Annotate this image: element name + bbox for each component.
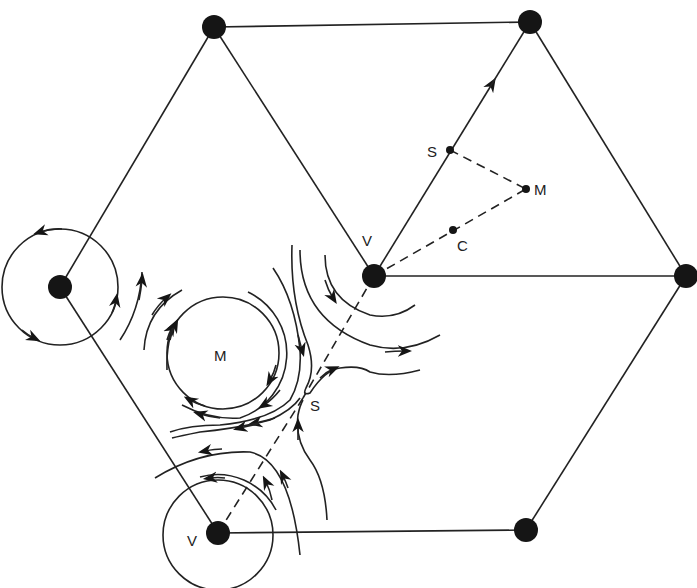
edge-bottom <box>218 530 526 533</box>
point-m-tri <box>522 185 530 193</box>
point-s-edge <box>446 146 454 154</box>
vertex-right <box>674 264 697 288</box>
edge-right-bottomright <box>526 276 686 530</box>
lattice-flow-diagram: V V M S S M C <box>0 0 697 588</box>
label-v-bottom: V <box>187 532 197 549</box>
lattice-vertices <box>48 10 697 545</box>
point-c-tri <box>449 226 457 234</box>
label-s-edge: S <box>427 143 437 160</box>
label-m-flow: M <box>214 347 227 364</box>
flow-sep-bottom <box>298 400 328 520</box>
vertex-left <box>48 275 72 299</box>
edge-top <box>214 22 530 27</box>
edge-center-topright <box>374 84 492 276</box>
label-m-tri: M <box>534 181 547 198</box>
special-points <box>446 146 530 234</box>
flow-arc-2 <box>144 290 182 350</box>
label-v-center: V <box>362 232 372 249</box>
edge-topleft-left <box>60 27 214 287</box>
dashed-lines <box>218 150 526 533</box>
vertex-bottom-right <box>514 518 538 542</box>
dash-s-m <box>450 150 526 189</box>
vertex-bottom-left <box>206 521 230 545</box>
labels: V V M S S M C <box>187 143 547 549</box>
flow-sep-top <box>292 245 420 394</box>
edge-topright-right <box>530 22 686 276</box>
flow-arc-1 <box>120 272 142 340</box>
edge-topleft-center <box>214 27 374 276</box>
vertex-center <box>362 264 386 288</box>
vertex-top-right <box>518 10 542 34</box>
label-c-tri: C <box>457 237 468 254</box>
label-s-flow: S <box>310 397 320 414</box>
vertex-top-left <box>202 15 226 39</box>
